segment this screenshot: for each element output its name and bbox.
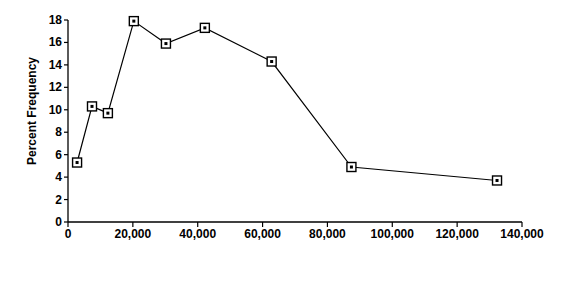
data-point-marker-center <box>132 20 135 23</box>
x-axis-ticks <box>68 222 522 227</box>
chart-container: Percent Frequency 024681012141618 020,00… <box>0 0 565 284</box>
data-series-line <box>77 21 497 180</box>
data-series-markers <box>73 17 502 185</box>
data-point-marker-center <box>90 105 93 108</box>
plot-area <box>0 0 565 284</box>
data-point-marker-center <box>106 112 109 115</box>
data-point-marker-center <box>164 42 167 45</box>
data-point-marker-center <box>350 166 353 169</box>
data-point-marker-center <box>203 26 206 29</box>
data-point-marker-center <box>496 179 499 182</box>
axis-lines <box>68 20 522 222</box>
data-point-marker-center <box>76 161 79 164</box>
data-point-marker-center <box>270 60 273 63</box>
